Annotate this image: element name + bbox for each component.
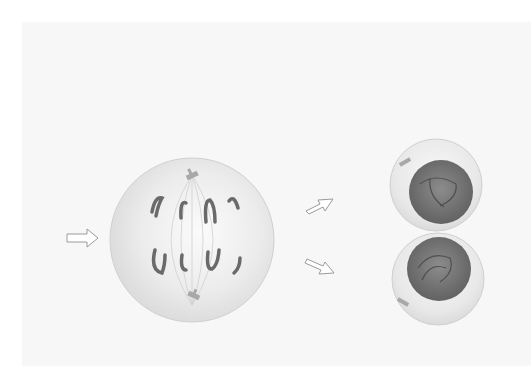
nucleus-bottom [407, 237, 471, 301]
input-arrow-icon [67, 229, 98, 247]
daughter-cell-bottom [392, 233, 484, 325]
daughter-cell-top [390, 139, 482, 231]
nucleus-top [409, 160, 473, 224]
cell-division-diagram [0, 0, 531, 366]
anaphase-cell [110, 158, 274, 322]
arrow-down-right-icon [305, 259, 334, 274]
arrow-up-right-icon [306, 199, 333, 214]
